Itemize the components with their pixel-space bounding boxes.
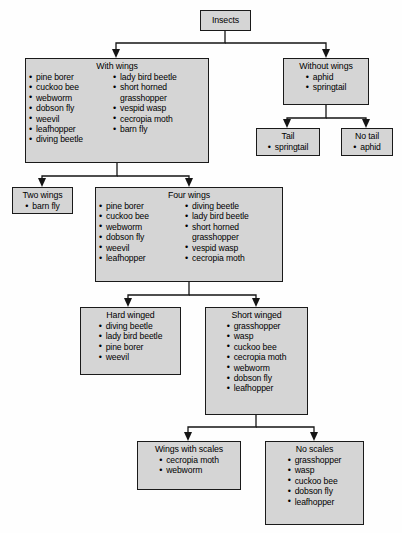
list-item: pine borer xyxy=(29,72,113,82)
node-four-wings[interactable]: Four wings pine borer cuckoo bee webworm… xyxy=(95,187,283,282)
list-item: pine borer xyxy=(99,342,163,352)
list-item: vespid wasp xyxy=(185,243,279,253)
node-two-wings-title: Two wings xyxy=(16,190,69,201)
list-item: lady bird beetle xyxy=(113,72,205,82)
classification-diagram: Insects With wings pine borer cuckoo bee… xyxy=(0,0,402,533)
list-item: leafhopper xyxy=(288,497,342,507)
node-short-winged-title: Short winged xyxy=(209,310,304,321)
list-item: barn fly xyxy=(113,124,205,134)
list-item-continuation: grasshopper xyxy=(185,232,279,242)
node-wings-with-scales-title: Wings with scales xyxy=(141,444,237,455)
list-item: leafhopper xyxy=(227,383,287,393)
node-hard-winged-items: diving beetle lady bird beetle pine bore… xyxy=(99,321,163,363)
list-item-continuation: grasshopper xyxy=(113,93,205,103)
list-item: short horned xyxy=(185,222,279,232)
list-item: aphid xyxy=(306,72,346,82)
node-with-wings-col1: pine borer cuckoo bee webworm dobson fly… xyxy=(29,72,113,145)
list-item: leafhopper xyxy=(99,253,185,263)
node-short-winged-items: grasshopper wasp cuckoo bee cecropia mot… xyxy=(227,321,287,394)
list-item: weevil xyxy=(29,114,113,124)
node-insects-title: Insects xyxy=(212,15,239,26)
list-item: cecropia moth xyxy=(185,253,279,263)
node-without-wings-title: Without wings xyxy=(287,61,365,72)
list-item: grasshopper xyxy=(227,321,287,331)
list-item: diving beetle xyxy=(185,201,279,211)
list-item: dobson fly xyxy=(29,103,113,113)
list-item: grasshopper xyxy=(288,455,342,465)
list-item: cuckoo bee xyxy=(29,82,113,92)
list-item: cuckoo bee xyxy=(288,476,342,486)
node-four-wings-col2: diving beetle lady bird beetle short hor… xyxy=(185,201,279,263)
list-item: weevil xyxy=(99,352,163,362)
list-item: lady bird beetle xyxy=(99,331,163,341)
list-item: webworm xyxy=(99,222,185,232)
node-four-wings-title: Four wings xyxy=(99,190,279,201)
node-without-wings[interactable]: Without wings aphid springtail xyxy=(283,58,369,105)
list-item: lady bird beetle xyxy=(185,211,279,221)
list-item: springtail xyxy=(268,142,308,152)
node-wings-with-scales-items: cecropia moth webworm xyxy=(159,455,219,476)
node-insects[interactable]: Insects xyxy=(200,10,251,31)
list-item: dobson fly xyxy=(99,232,185,242)
node-no-tail[interactable]: No tail aphid xyxy=(341,128,393,156)
list-item: cuckoo bee xyxy=(227,342,287,352)
list-item: pine borer xyxy=(99,201,185,211)
node-with-wings[interactable]: With wings pine borer cuckoo bee webworm… xyxy=(25,58,209,163)
node-hard-winged-title: Hard winged xyxy=(84,310,177,321)
node-two-wings[interactable]: Two wings barn fly xyxy=(12,187,73,214)
node-tail-items: springtail xyxy=(268,142,308,152)
node-tail[interactable]: Tail springtail xyxy=(256,128,320,156)
node-short-winged[interactable]: Short winged grasshopper wasp cuckoo bee… xyxy=(205,307,308,415)
node-hard-winged[interactable]: Hard winged diving beetle lady bird beet… xyxy=(80,307,181,375)
list-item: cuckoo bee xyxy=(99,211,185,221)
list-item: cecropia moth xyxy=(227,352,287,362)
list-item: cecropia moth xyxy=(113,114,205,124)
list-item: diving beetle xyxy=(99,321,163,331)
node-no-tail-title: No tail xyxy=(345,131,389,142)
node-no-tail-items: aphid xyxy=(353,142,381,152)
list-item: dobson fly xyxy=(288,486,342,496)
list-item: springtail xyxy=(306,82,346,92)
list-item: wasp xyxy=(288,465,342,475)
list-item: vespid wasp xyxy=(113,103,205,113)
node-two-wings-items: barn fly xyxy=(25,201,59,211)
node-no-scales-items: grasshopper wasp cuckoo bee dobson fly l… xyxy=(288,455,342,507)
list-item: aphid xyxy=(353,142,381,152)
list-item: webworm xyxy=(29,93,113,103)
list-item: leafhopper xyxy=(29,124,113,134)
list-item: wasp xyxy=(227,331,287,341)
list-item: dobson fly xyxy=(227,373,287,383)
node-no-scales[interactable]: No scales grasshopper wasp cuckoo bee do… xyxy=(265,441,364,525)
node-tail-title: Tail xyxy=(260,131,316,142)
list-item: barn fly xyxy=(25,201,59,211)
list-item: diving beetle xyxy=(29,134,113,144)
node-no-scales-title: No scales xyxy=(269,444,360,455)
list-item: short horned xyxy=(113,82,205,92)
list-item: weevil xyxy=(99,243,185,253)
node-with-wings-col2: lady bird beetle short horned grasshoppe… xyxy=(113,72,205,134)
list-item: cecropia moth xyxy=(159,455,219,465)
node-wings-with-scales[interactable]: Wings with scales cecropia moth webworm xyxy=(137,441,241,490)
list-item: webworm xyxy=(227,363,287,373)
node-with-wings-title: With wings xyxy=(29,61,205,72)
node-without-wings-items: aphid springtail xyxy=(306,72,346,93)
list-item: webworm xyxy=(159,465,219,475)
node-four-wings-col1: pine borer cuckoo bee webworm dobson fly… xyxy=(99,201,185,263)
